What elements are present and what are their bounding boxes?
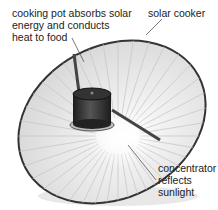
label-solar-cooker: solar cooker (148, 7, 205, 19)
label-concentrator: concentrator reflects sunlight (158, 162, 216, 198)
label-cooking-pot: cooking pot absorbs solar energy and con… (12, 7, 152, 43)
cooking-pot (70, 88, 114, 131)
